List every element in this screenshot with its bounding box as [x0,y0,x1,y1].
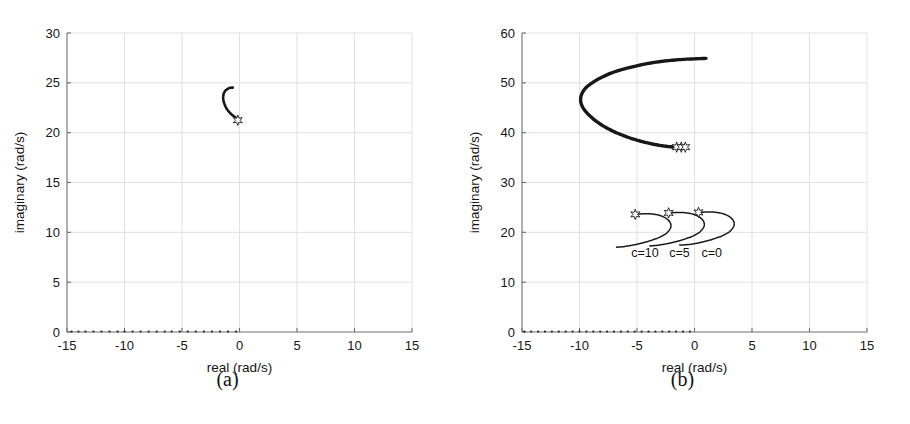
series-point [203,330,205,332]
series-point [77,330,79,332]
series-lower-branch-c5 [650,212,705,246]
figure-root: -15-10-5051015051015202530real (rad/s)im… [0,0,910,424]
series-point [537,330,539,332]
curve-label-c5: c=5 [669,246,690,260]
series-point [551,330,553,332]
x-tick-label: 5 [293,338,300,353]
series-point [211,330,213,332]
series-point [613,330,615,332]
series-point [661,330,663,332]
series-point [140,330,142,332]
series-point [84,330,86,332]
series-point [647,330,649,332]
series-point [92,330,94,332]
series-point [148,330,150,332]
grid-group [67,33,412,332]
y-tick-label: 30 [46,26,60,41]
y-tick-label: 10 [46,225,60,240]
series-point [179,330,181,332]
series-point [565,330,567,332]
x-tick-label: 0 [691,338,698,353]
series-point [654,330,656,332]
series-point [100,330,102,332]
series-point [606,330,608,332]
series-lower-branch-c10 [616,214,671,248]
series-point [235,330,237,332]
y-tick-label: 0 [53,325,60,340]
series-point [71,330,73,332]
y-tick-label: 10 [501,275,515,290]
series-point [641,330,643,332]
y-tick-label: 60 [501,26,515,41]
panel-a: -15-10-5051015051015202530real (rad/s)im… [0,0,455,424]
series-point [572,330,574,332]
curve-label-c10: c=10 [631,246,659,260]
series-point [219,330,221,332]
y-tick-label: 20 [501,225,515,240]
series-point [108,330,110,332]
y-axis-title: imaginary (rad/s) [467,132,482,233]
x-tick-label: 5 [748,338,755,353]
x-tick-label: -5 [631,338,643,353]
x-tick-label: 10 [347,338,361,353]
y-tick-label: 40 [501,125,515,140]
series-point [123,330,125,332]
grid-group [522,33,867,332]
y-tick-label: 25 [46,75,60,90]
y-tick-label: 0 [508,325,515,340]
panel-b: -15-10-50510150102030405060real (rad/s)i… [455,0,910,424]
series-point [544,330,546,332]
series-point [156,330,158,332]
x-tick-label: 15 [860,338,874,353]
series-point [117,330,119,332]
panel-a-caption: (a) [0,368,455,391]
y-tick-label: 5 [53,275,60,290]
panel-a-plot: -15-10-5051015051015202530real (rad/s)im… [0,0,455,424]
x-tick-label: -10 [115,338,134,353]
series-point [171,330,173,332]
panel-b-plot: -15-10-50510150102030405060real (rad/s)i… [455,0,910,424]
series-point [530,330,532,332]
series-point [227,330,229,332]
y-tick-label: 20 [46,125,60,140]
series-point [164,330,166,332]
series-point [585,330,587,332]
x-tick-label: -15 [58,338,77,353]
x-tick-label: 15 [405,338,419,353]
y-tick-label: 15 [46,175,60,190]
series-point [634,330,636,332]
x-tick-label: 10 [802,338,816,353]
series-point [682,330,684,332]
series-point [187,330,189,332]
series-point [689,330,691,332]
series-point [578,330,580,332]
series-point [668,330,670,332]
series-point [675,330,677,332]
x-tick-label: -10 [570,338,589,353]
series-upper-branch-thick [581,58,706,147]
y-axis-title: imaginary (rad/s) [12,132,27,233]
series-point [558,330,560,332]
series-root-locus-branch [223,88,238,120]
series-point [627,330,629,332]
x-tick-label: -15 [513,338,532,353]
series-lower-branch-c0 [680,212,735,245]
curve-label-c0: c=0 [701,246,722,260]
panel-b-caption: (b) [455,368,910,391]
y-tick-label: 30 [501,175,515,190]
x-tick-label: -5 [176,338,188,353]
x-tick-label: 0 [236,338,243,353]
series-point [131,330,133,332]
series-point [523,330,525,332]
series-point [599,330,601,332]
series-point [592,330,594,332]
y-tick-label: 50 [501,75,515,90]
series-point [620,330,622,332]
series-point [195,330,197,332]
